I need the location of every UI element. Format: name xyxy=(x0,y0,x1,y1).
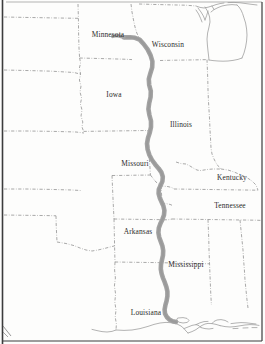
state-label-missouri: Missouri xyxy=(121,159,148,168)
state-label-iowa: Iowa xyxy=(106,90,121,99)
state-label-mississippi: Mississippi xyxy=(168,260,203,269)
state-label-illinois: Illinois xyxy=(170,120,192,129)
state-label-wisconsin: Wisconsin xyxy=(152,40,184,49)
state-label-kentucky: Kentucky xyxy=(217,173,247,182)
state-label-minnesota: Minnesota xyxy=(92,30,125,39)
state-label-tennessee: Tennessee xyxy=(214,201,246,210)
state-label-louisiana: Louisiana xyxy=(131,308,162,317)
state-label-arkansas: Arkansas xyxy=(124,227,153,236)
state-label-layer: Minnesota Wisconsin Iowa Illinois Missou… xyxy=(0,0,265,344)
map-canvas: Minnesota Wisconsin Iowa Illinois Missou… xyxy=(0,0,265,344)
